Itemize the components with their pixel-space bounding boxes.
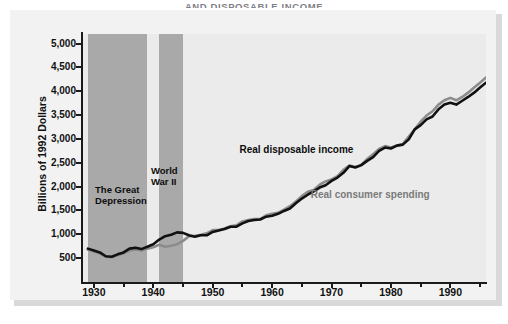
chart-title-strip: AND DISPOSABLE INCOME	[0, 0, 508, 8]
x-tick-label: 1990	[439, 286, 462, 298]
x-tick-label: 1930	[82, 286, 105, 298]
x-tick-marks	[10, 10, 496, 300]
x-tick-label: 1960	[260, 286, 283, 298]
chart-figure: AND DISPOSABLE INCOME Billions of 1992 D…	[0, 0, 508, 324]
page-title: AND DISPOSABLE INCOME	[185, 1, 323, 8]
chart-card: Billions of 1992 Dollars 5001,0001,5002,…	[10, 10, 496, 300]
x-tick-label: 1940	[142, 286, 165, 298]
card-shadow-right	[496, 14, 502, 306]
x-tick-label: 1980	[379, 286, 402, 298]
x-tick-label: 1970	[320, 286, 343, 298]
x-tick-labels: 1930194019501960197019801990	[10, 286, 496, 306]
x-tick-label: 1950	[201, 286, 224, 298]
